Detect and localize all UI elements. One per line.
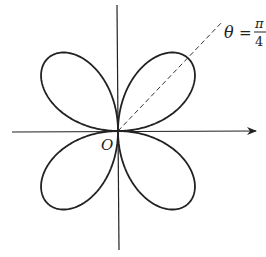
polar-rose-diagram: O θ = π 4 — [0, 0, 266, 257]
fraction-numerator: π — [254, 16, 264, 31]
fraction-denominator: 4 — [255, 34, 263, 49]
theta-label: θ — [224, 23, 234, 42]
equals-sign: = — [239, 24, 252, 42]
origin-label: O — [101, 136, 113, 154]
